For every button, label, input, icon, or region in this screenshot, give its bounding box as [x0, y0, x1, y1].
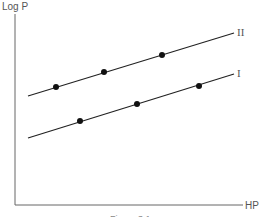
data-point [134, 101, 140, 107]
data-point [196, 83, 202, 89]
data-point [159, 52, 165, 58]
series-ii: II [28, 26, 245, 96]
figure-caption: Figure 3.1 [110, 214, 151, 217]
data-point [53, 84, 59, 90]
series-line [28, 74, 234, 138]
series-label: I [237, 67, 241, 79]
data-point [101, 69, 107, 75]
series-label: II [237, 26, 245, 38]
y-axis-label: Log P [2, 1, 28, 12]
series-layer: III [28, 26, 245, 138]
chart: Log P HP III Figure 3.1 [0, 0, 263, 217]
series-i: I [28, 67, 241, 138]
x-axis-label: HP [245, 200, 259, 211]
data-point [77, 118, 83, 124]
